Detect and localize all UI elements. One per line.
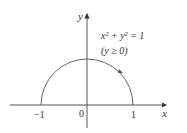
curve-direction-arrow-icon — [118, 69, 123, 73]
y-axis-label: y — [77, 10, 83, 22]
tick-label-neg-one: −1 — [34, 109, 45, 120]
x-axis-label: x — [161, 107, 167, 119]
tick-label-zero: 0 — [79, 108, 84, 119]
equation-label: x² + y² = 1 — [100, 30, 144, 41]
condition-label: (y ≥ 0) — [101, 45, 128, 57]
semicircle-diagram: y x −1 0 1 x² + y² = 1 (y ≥ 0) — [0, 0, 187, 133]
tick-label-one: 1 — [131, 109, 136, 120]
